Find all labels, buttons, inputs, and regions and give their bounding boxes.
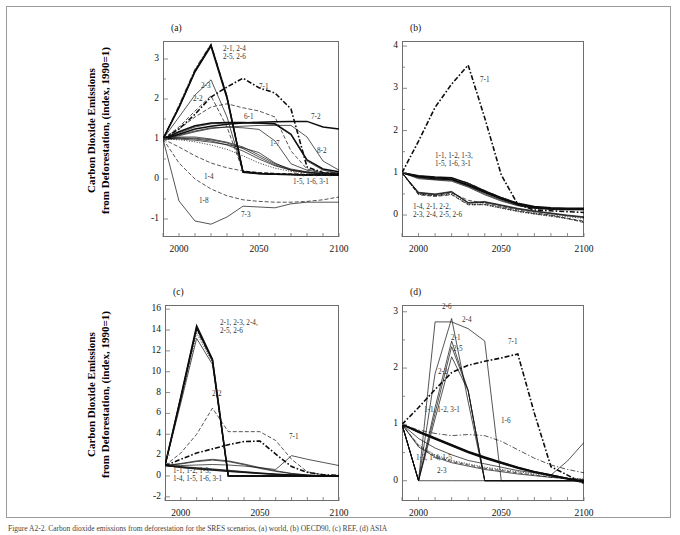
series-annotation: 1-1, 1-2, 1-3, 1-5, 1-6, 3-1: [293, 170, 331, 187]
series-annotation: 7-2: [311, 113, 321, 121]
y-tick-label: -2: [131, 491, 161, 501]
series-annotation: 7-1: [259, 83, 269, 91]
series-annotation: 2-1, 2-4 2-5, 2-6: [223, 45, 246, 62]
series-annotation: 1-4: [204, 173, 214, 181]
panel-tag-d: (d): [410, 287, 421, 297]
panel-tag-b: (b): [410, 23, 421, 33]
series-annotation: 2-5: [453, 345, 463, 353]
y-tick-label: 8: [131, 387, 161, 397]
x-tick-label: 2000: [399, 508, 439, 518]
y-tick-label: -1: [129, 213, 159, 223]
series-annotation: 1-8: [199, 197, 209, 205]
y-tick-label: 1: [368, 167, 398, 177]
x-tick-label: 2100: [319, 244, 359, 254]
x-tick-label: 2100: [564, 244, 604, 254]
y-tick-label: 1: [129, 133, 159, 143]
series-annotation: 1-1, 1-2, 3-1: [424, 406, 460, 414]
panel-tag-a: (a): [171, 23, 182, 33]
series-annotation: 2-2: [212, 390, 222, 398]
y-tick-label: 0: [131, 470, 161, 480]
panel-a: (a)-101232000205021002-1, 2-4 2-5, 2-62-…: [117, 21, 352, 266]
series-annotation: 7-3: [241, 211, 251, 219]
series-annotation: 2-2: [193, 95, 203, 103]
panel-tag-c: (c): [173, 287, 184, 297]
series-annotation: 2-1, 2-3, 2-4, 2-5, 2-6: [220, 319, 258, 336]
y-tick-label: 0: [368, 209, 398, 219]
y-tick-label: 16: [131, 303, 161, 313]
y-tick-label: 3: [368, 82, 398, 92]
series-annotation: 1-1, 1-2, 1-3, 1-5, 1-6, 3-1: [435, 152, 473, 169]
series-annotation: 2-2: [438, 368, 448, 376]
y-axis-label-top: Carbon Dioxide Emissions from Deforestat…: [85, 31, 115, 231]
y-tick-label: 4: [368, 40, 398, 50]
y-tick-label: 4: [131, 428, 161, 438]
series-annotation: 6-1: [244, 113, 254, 121]
series-annotation: 2-1: [451, 334, 461, 342]
y-tick-label: 1: [368, 418, 398, 428]
panel-c: (c)-202468101214162000205021002-1, 2-3, …: [117, 285, 352, 530]
y-tick-label: 3: [129, 53, 159, 63]
series-annotation: 1-1, 1-2, 1-3, 1-4, 1-5, 1-6, 3-1: [173, 467, 222, 484]
y-tick-label: 2: [131, 449, 161, 459]
y-tick-label: 2: [368, 362, 398, 372]
figure-outer-frame: Carbon Dioxide Emissions from Deforestat…: [6, 6, 671, 518]
series-annotation: 2-3: [437, 467, 447, 475]
panel-b: (b)012342000205021007-11-1, 1-2, 1-3, 1-…: [362, 21, 597, 266]
series-annotation: 7-1: [480, 76, 490, 84]
y-tick-label: 12: [131, 345, 161, 355]
panel-d: (d)01232000205021002-62-42-12-52-27-11-1…: [362, 285, 597, 530]
y-tick-label: 0: [368, 475, 398, 485]
y-tick-label: 14: [131, 324, 161, 334]
y-axis-label-bottom: Carbon Dioxide Emissions from Deforestat…: [85, 295, 115, 495]
series-annotation: 7-1: [289, 433, 299, 441]
x-tick-label: 2000: [161, 508, 201, 518]
y-tick-label: 2: [129, 93, 159, 103]
x-tick-label: 2050: [481, 244, 521, 254]
y-tick-label: 0: [129, 173, 159, 183]
axis-ticks-a: [163, 41, 353, 251]
x-tick-label: 2000: [159, 244, 199, 254]
series-annotation: 1-4, 2-1, 2-2, 2-3, 2-4, 2-5, 2-6: [413, 203, 462, 220]
x-tick-label: 2050: [481, 508, 521, 518]
x-tick-label: 2100: [564, 508, 604, 518]
series-annotation: 2-6: [442, 303, 452, 311]
y-tick-label: 6: [131, 407, 161, 417]
series-annotation: 1-3, 1-4, 1-5: [416, 454, 452, 462]
x-tick-label: 2000: [399, 244, 439, 254]
y-tick-label: 10: [131, 366, 161, 376]
x-tick-label: 2050: [240, 508, 280, 518]
x-tick-label: 2100: [319, 508, 359, 518]
series-annotation: 7-1: [508, 338, 518, 346]
series-annotation: 8-2: [317, 147, 327, 155]
series-annotation: 1-6: [501, 417, 511, 425]
series-annotation: 2-4: [462, 316, 472, 324]
y-tick-label: 3: [368, 306, 398, 316]
series-annotation: 1-7: [270, 140, 280, 148]
series-annotation: 2-3: [201, 82, 211, 90]
y-tick-label: 2: [368, 125, 398, 135]
figure-caption: Figure A2-2. Carbon dioxide emissions fr…: [8, 524, 672, 535]
x-tick-label: 2050: [239, 244, 279, 254]
